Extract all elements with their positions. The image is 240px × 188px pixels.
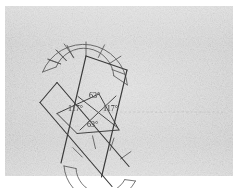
scanned-figure-page: 63° 117° 117° 63°: [0, 0, 240, 188]
scan-grain-texture: [5, 6, 233, 176]
angle-label-top: 63°: [89, 92, 100, 100]
angle-label-left: 117°: [68, 105, 83, 113]
angle-label-right: 117°: [103, 105, 118, 113]
scan-paper-area: [5, 6, 233, 176]
angle-label-bottom: 63°: [87, 121, 98, 129]
scan-vignette: [5, 6, 233, 176]
